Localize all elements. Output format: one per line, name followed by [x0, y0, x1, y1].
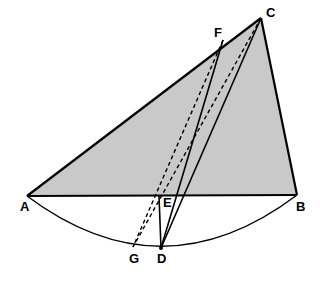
geometry-figure: A B C D E F G — [0, 0, 320, 283]
geometry-canvas — [0, 0, 320, 283]
label-b: B — [296, 200, 305, 213]
label-c: C — [266, 6, 275, 19]
label-g: G — [129, 252, 139, 265]
shaded-triangle-abc — [27, 18, 297, 196]
segment-e-d — [159, 196, 161, 248]
arc-a-to-b — [27, 195, 297, 246]
label-a: A — [20, 200, 29, 213]
point-d-marker — [159, 246, 163, 250]
label-e: E — [163, 196, 172, 209]
label-d: D — [157, 252, 166, 265]
label-f: F — [214, 26, 222, 39]
